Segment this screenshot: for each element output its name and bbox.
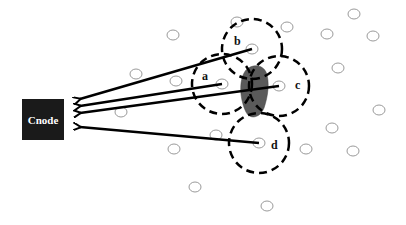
sensor-node [347, 146, 359, 156]
sensor-node [167, 30, 179, 40]
sensor-node [332, 63, 344, 73]
cluster-label-c: c [295, 79, 300, 91]
sensor-node [348, 9, 360, 19]
sensor-node [367, 31, 379, 41]
sensor-node [168, 144, 180, 154]
sensor-node [326, 123, 338, 133]
sink-node-cnode: Cnode [22, 99, 64, 140]
sensor-node [170, 76, 182, 86]
sensor-node [281, 22, 293, 32]
cluster-label-a: a [202, 70, 208, 82]
sensor-node [373, 105, 385, 115]
sensor-node [261, 201, 273, 211]
sensor-node [130, 69, 142, 79]
sensor-node [189, 182, 201, 192]
sink-node-label: Cnode [28, 114, 59, 126]
sensor-node [321, 29, 333, 39]
sensor-node [300, 144, 312, 154]
cluster-label-b: b [234, 35, 241, 47]
cluster-label-d: d [271, 139, 278, 151]
